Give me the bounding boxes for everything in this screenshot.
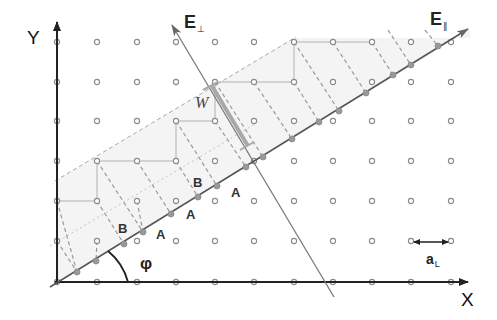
lattice-point [330,238,335,243]
lattice-point [408,198,413,203]
lattice-point [251,39,256,44]
projected-point [363,90,369,96]
window-label: W [195,95,208,111]
projected-point [214,183,220,189]
lattice-point [94,158,99,163]
y-axis-label: Y [27,28,40,47]
lattice-point [173,158,178,163]
e-perp-subscript: ⊥ [197,24,205,34]
projected-point [243,164,249,170]
lattice-point [369,79,374,84]
lattice-point [134,158,139,163]
lattice-point [330,39,335,44]
lattice-point [212,118,217,123]
angle-arc-phi [108,251,128,282]
lattice-point [448,79,453,84]
lattice-point [291,198,296,203]
lattice-point [212,198,217,203]
chain-label-b-1: B [118,222,127,235]
lattice-constant-label: aL [426,252,440,266]
lattice-point [134,198,139,203]
projected-point [336,108,342,114]
lattice-point [212,158,217,163]
projected-point [289,136,295,142]
lattice-point [330,118,335,123]
lattice-point [330,79,335,84]
lattice-point [173,79,178,84]
lattice-point [369,238,374,243]
lattice-point [134,39,139,44]
lattice-point [408,118,413,123]
projected-point [408,62,414,68]
lattice-point [448,238,453,243]
x-axis-label: X [461,290,474,309]
lattice-constant-subscript: L [435,259,440,269]
cut-and-project-diagram [0,0,497,320]
lattice-point [291,39,296,44]
lattice-point [173,198,178,203]
lattice-point [251,238,256,243]
lattice-point [173,39,178,44]
lattice-point [94,39,99,44]
chain-label-b-2: B [193,176,202,189]
lattice-point [134,238,139,243]
lattice-point [330,198,335,203]
projected-point [390,72,396,78]
chain-label-a-2: A [186,208,195,221]
e-perp-letter: E [184,12,196,32]
lattice-point [448,118,453,123]
lattice-point [408,238,413,243]
e-parallel-subscript: ∥ [443,21,448,31]
projected-point [140,229,146,235]
lattice-point [251,79,256,84]
lattice-point [291,118,296,123]
lattice-point [369,158,374,163]
lattice-point [291,79,296,84]
projected-point [74,269,80,275]
lattice-point [251,198,256,203]
projected-point [168,211,174,217]
lattice-point [94,118,99,123]
chain-label-a-3: A [231,186,240,199]
lattice-point [448,198,453,203]
lattice-point [94,198,99,203]
lattice-point [291,238,296,243]
lattice-point [330,158,335,163]
lattice-point [134,79,139,84]
projected-point [435,43,441,49]
lattice-point [134,118,139,123]
projected-point [260,154,266,160]
angle-label-phi: φ [140,255,152,272]
e-perp-label: E⊥ [184,13,205,31]
lattice-point [212,39,217,44]
lattice-point [448,158,453,163]
lattice-point [291,158,296,163]
lattice-point [408,79,413,84]
chain-label-a-1: A [156,228,165,241]
lattice-constant-letter: a [426,251,434,267]
e-parallel-label: E∥ [430,10,448,28]
lattice-point [94,79,99,84]
lattice-point [369,39,374,44]
e-parallel-letter: E [430,9,442,29]
projected-point [195,194,201,200]
lattice-point [251,118,256,123]
projected-point [121,241,127,247]
lattice-point [173,118,178,123]
lattice-point [94,238,99,243]
lattice-point [369,198,374,203]
lattice-point [212,238,217,243]
lattice-point [408,39,413,44]
lattice-point [369,118,374,123]
projected-point [316,119,322,125]
projected-point [93,258,99,264]
lattice-point [173,238,178,243]
lattice-point [408,158,413,163]
